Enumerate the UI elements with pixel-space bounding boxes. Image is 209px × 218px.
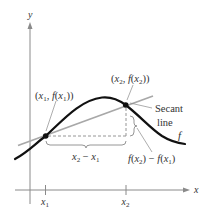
point-2: [123, 102, 129, 108]
secant-leader-line: [130, 103, 152, 108]
rise-brace: [130, 116, 137, 136]
point-2-label: (x2, f(x2)): [111, 73, 150, 86]
x-axis-arrow-icon: [183, 188, 190, 193]
y-axis-arrow-icon: [28, 22, 33, 29]
secant-label-line1: Secant: [155, 103, 183, 114]
x1-tick-label: x1: [40, 196, 49, 209]
rise-leader-line: [137, 128, 152, 152]
secant-label-line2: line: [157, 117, 173, 128]
function-label: f: [178, 129, 183, 141]
run-label: x2 − x1: [71, 151, 100, 164]
rise-label: f(x2) − f(x1): [128, 153, 176, 166]
run-brace: [46, 141, 126, 148]
point-1: [43, 133, 49, 139]
secant-line-diagram: y x x1 x2 (x1, f(x1)) (x2, f(: [0, 0, 209, 218]
p2-leader-line: [127, 85, 133, 100]
point-1-label: (x1, f(x1)): [35, 90, 74, 103]
diagram-canvas: y x x1 x2 (x1, f(x1)) (x2, f(: [0, 0, 209, 218]
x2-tick-label: x2: [121, 196, 130, 209]
x-axis-label: x: [193, 184, 199, 195]
y-axis-label: y: [27, 9, 33, 20]
